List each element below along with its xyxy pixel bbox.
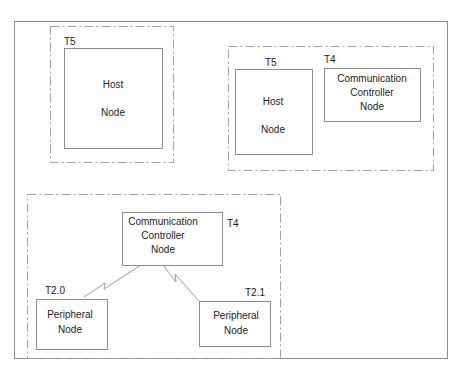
node-label-line: Communication [337, 73, 406, 84]
node-label-line: Peripheral [213, 310, 259, 321]
node-label-line: Controller [350, 87, 394, 98]
group-bottom: T4 Communication Controller Node T2.0 Pe… [28, 195, 281, 359]
node-label-line: Host [103, 79, 124, 90]
node-label-line: Node [261, 124, 285, 135]
node-label-line: Communication [128, 216, 197, 227]
node-type-label: T2.1 [245, 287, 265, 298]
node-type-label: T5 [265, 57, 277, 68]
node-label-line: Node [151, 244, 175, 255]
node-label-line: Peripheral [47, 309, 93, 320]
zigzag-link-t20 [84, 265, 141, 297]
group-top-right: T5 Host Node T4 Communication Controller… [229, 47, 434, 171]
node-type-label: T4 [324, 54, 336, 65]
node-label-line: Node [101, 107, 125, 118]
host-node[interactable] [236, 70, 313, 155]
zigzag-link-t21 [163, 265, 199, 301]
node-label-line: Controller [141, 230, 185, 241]
node-label-line: Node [224, 325, 248, 336]
node-label-line: Node [360, 101, 384, 112]
node-type-label: T2.0 [45, 285, 65, 296]
host-node[interactable] [65, 49, 163, 149]
node-label-line: Host [263, 96, 284, 107]
group-top-left: T5 Host Node [51, 27, 174, 163]
diagram-canvas: T5 Host Node T5 Host Node T4 Communicati… [0, 0, 460, 369]
node-type-label: T5 [64, 36, 76, 47]
peripheral-node-t21[interactable] [200, 302, 271, 347]
node-type-label: T4 [227, 218, 239, 229]
node-label-line: Node [58, 324, 82, 335]
